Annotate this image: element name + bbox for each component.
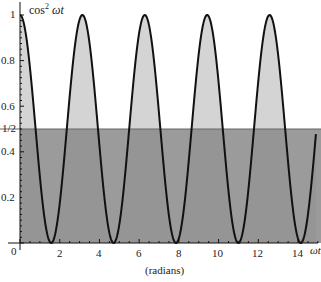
y-axis-title: cos2 ωt [29, 2, 64, 18]
x-tick-6: 6 [136, 247, 142, 259]
x-axis-unit: (radians) [145, 264, 184, 276]
y-tick-0.6: 0.6 [1, 100, 15, 112]
x-tick-8: 8 [176, 247, 182, 259]
y-tick-half: 1/2 [2, 122, 16, 134]
x-tick-2: 2 [57, 247, 63, 259]
y-tick-0.4: 0.4 [1, 145, 15, 157]
y-tick-0.2: 0.2 [1, 191, 15, 203]
x-tick-0: 0 [11, 245, 17, 257]
x-tick-10: 10 [212, 247, 223, 259]
cos-squared-chart [0, 0, 321, 282]
x-tick-14: 14 [292, 247, 303, 259]
x-tick-12: 12 [252, 247, 263, 259]
y-tick-0.8: 0.8 [1, 54, 15, 66]
x-axis-var: ωt [310, 244, 321, 256]
y-tick-1: 1 [10, 8, 16, 20]
x-tick-4: 4 [96, 247, 102, 259]
